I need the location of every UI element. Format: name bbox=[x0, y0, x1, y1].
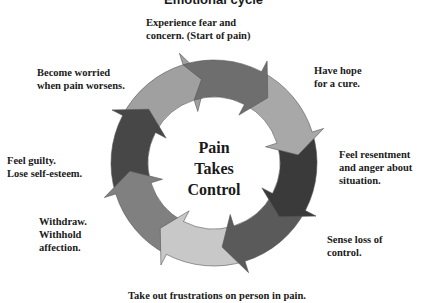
stage-label-bottom-left: Withdraw. Withhold affection. bbox=[39, 215, 87, 254]
label-line: Sense loss of bbox=[327, 233, 382, 246]
center-line: Pain bbox=[164, 137, 264, 158]
center-line: Takes bbox=[164, 158, 264, 179]
label-line: Lose self-esteem. bbox=[7, 167, 82, 180]
label-line: Become worried bbox=[37, 66, 125, 79]
stage-label-left: Feel guilty. Lose self-esteem. bbox=[7, 154, 82, 180]
label-line: for a cure. bbox=[314, 77, 362, 90]
stage-label-right: Feel resentment and anger about situatio… bbox=[339, 148, 412, 187]
stage-label-bottom: Take out frustrations on person in pain. bbox=[128, 289, 306, 302]
stage-label-top-right: Have hope for a cure. bbox=[314, 64, 362, 90]
center-line: Control bbox=[164, 179, 264, 200]
label-line: Have hope bbox=[314, 64, 362, 77]
stage-label-top: Experience fear and concern. (Start of p… bbox=[146, 16, 250, 42]
label-line: Feel guilty. bbox=[7, 154, 82, 167]
label-line: concern. (Start of pain) bbox=[146, 29, 250, 42]
label-line: control. bbox=[327, 246, 382, 259]
label-line: Experience fear and bbox=[146, 16, 250, 29]
label-line: and anger about bbox=[339, 161, 412, 174]
label-line: situation. bbox=[339, 174, 412, 187]
stage-label-top-left: Become worried when pain worsens. bbox=[37, 66, 125, 92]
label-line: Take out frustrations on person in pain. bbox=[128, 289, 306, 302]
label-line: Withhold bbox=[39, 228, 87, 241]
label-line: Feel resentment bbox=[339, 148, 412, 161]
center-label: Pain Takes Control bbox=[164, 137, 264, 200]
stage-label-bottom-right: Sense loss of control. bbox=[327, 233, 382, 259]
label-line: when pain worsens. bbox=[37, 79, 125, 92]
label-line: Withdraw. bbox=[39, 215, 87, 228]
label-line: affection. bbox=[39, 241, 87, 254]
